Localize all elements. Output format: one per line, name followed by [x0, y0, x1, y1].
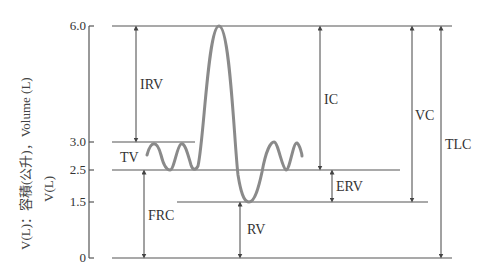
label-ic: IC — [324, 92, 338, 107]
spirogram-trace — [147, 26, 302, 202]
tick-1-5: 1.5 — [70, 194, 86, 209]
y-axis-title: V(L)：容積(公升)，Volume (L) — [18, 77, 33, 250]
tick-0: 0 — [80, 250, 87, 265]
label-tv: TV — [120, 150, 139, 165]
tick-3-0: 3.0 — [70, 134, 86, 149]
level-lines — [112, 26, 452, 258]
label-rv: RV — [247, 222, 265, 237]
label-irv: IRV — [140, 77, 163, 92]
tick-6-0: 6.0 — [70, 18, 86, 33]
y-axis-short-title: V(L) — [41, 176, 56, 202]
tick-2-5: 2.5 — [70, 162, 86, 177]
label-vc: VC — [415, 108, 434, 123]
label-frc: FRC — [148, 208, 174, 223]
spirogram-diagram: 6.0 3.0 2.5 1.5 0 V(L)：容積(公升)，Volume (L)… — [0, 0, 486, 280]
label-tlc: TLC — [445, 137, 471, 152]
y-axis: 6.0 3.0 2.5 1.5 0 — [70, 18, 94, 265]
label-erv: ERV — [336, 179, 363, 194]
